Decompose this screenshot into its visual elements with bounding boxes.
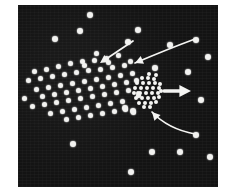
arrow-inflow-upper-left-head-icon xyxy=(100,55,109,63)
arrow-inflow-upper-left-shaft xyxy=(105,41,133,60)
arrow-outflow-right-head-icon xyxy=(179,85,191,97)
figure-root xyxy=(0,0,230,196)
arrow-group xyxy=(100,39,195,134)
arrow-inflow-upper-curved-shaft xyxy=(135,39,195,63)
particle-field-panel xyxy=(18,5,218,187)
annotation-arrow-layer xyxy=(18,5,218,187)
